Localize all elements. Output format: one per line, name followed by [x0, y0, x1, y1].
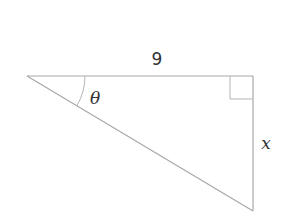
angle-label: θ — [90, 88, 100, 108]
angle-arc — [77, 76, 85, 106]
triangle-diagram: 9 θ x — [0, 0, 290, 218]
side-length-label: 9 — [152, 49, 163, 69]
hypotenuse — [27, 76, 253, 211]
side-variable-label: x — [261, 133, 271, 153]
right-angle-marker — [230, 76, 253, 99]
